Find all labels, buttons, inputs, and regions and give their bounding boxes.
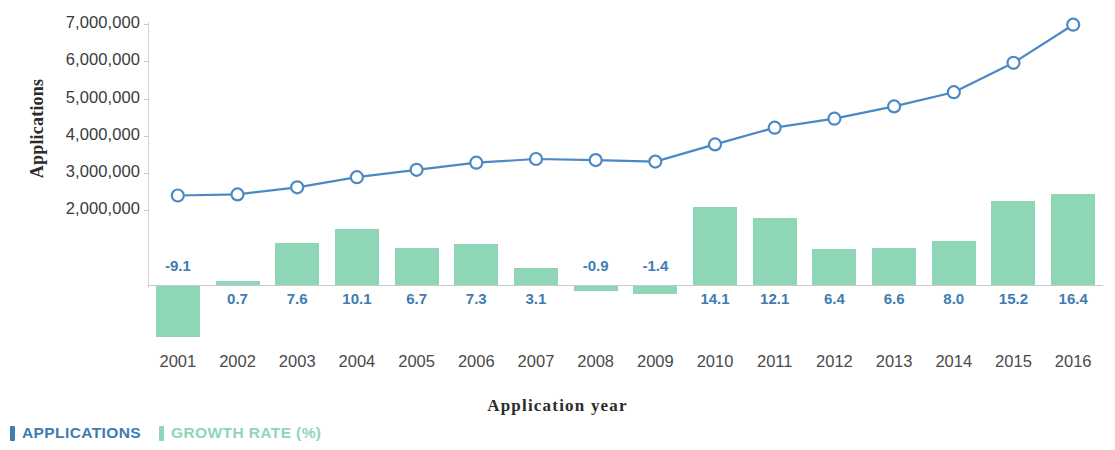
applications-growth-chart: Applications 2,000,0003,000,0004,000,000… [0, 0, 1115, 450]
applications-data-point-marker [232, 188, 244, 200]
chart-legend: APPLICATIONS GROWTH RATE (%) [10, 424, 321, 442]
y-tick-label: 5,000,000 [32, 88, 140, 107]
y-tick-mark [144, 61, 149, 62]
y-tick-label: 3,000,000 [32, 162, 140, 181]
applications-data-point-marker [649, 156, 661, 168]
legend-label-growth-rate: GROWTH RATE (%) [171, 424, 321, 442]
legend-label-applications: APPLICATIONS [22, 424, 141, 442]
y-tick-mark [144, 99, 149, 100]
applications-data-point-marker [351, 171, 363, 183]
applications-data-point-marker [172, 190, 184, 202]
applications-line-path [178, 25, 1073, 196]
y-tick-mark [144, 173, 149, 174]
applications-data-point-marker [530, 153, 542, 165]
y-tick-label: 7,000,000 [32, 13, 140, 32]
applications-data-point-marker [888, 100, 900, 112]
applications-data-point-marker [590, 154, 602, 166]
y-tick-mark [144, 136, 149, 137]
y-tick-label: 2,000,000 [32, 199, 140, 218]
applications-data-point-marker [291, 181, 303, 193]
legend-swatch-growth-rate [159, 426, 164, 441]
applications-data-point-marker [828, 113, 840, 125]
applications-data-point-marker [769, 122, 781, 134]
growth-rate-value-label: 16.4 [1033, 290, 1113, 307]
growth-rate-value-label: 3.1 [496, 290, 576, 307]
applications-data-point-marker [709, 138, 721, 150]
legend-item-applications[interactable]: APPLICATIONS [10, 424, 141, 442]
applications-data-point-marker [1067, 19, 1079, 31]
legend-swatch-applications [10, 426, 15, 441]
applications-data-point-marker [1008, 57, 1020, 69]
y-tick-mark [144, 24, 149, 25]
applications-data-point-marker [411, 164, 423, 176]
legend-item-growth-rate[interactable]: GROWTH RATE (%) [159, 424, 321, 442]
growth-rate-value-label: -9.1 [138, 257, 218, 274]
y-tick-label: 4,000,000 [32, 125, 140, 144]
applications-line-series [148, 0, 1103, 300]
y-tick-mark [144, 210, 149, 211]
applications-data-point-marker [948, 86, 960, 98]
applications-data-point-marker [470, 157, 482, 169]
growth-rate-value-label: -1.4 [615, 257, 695, 274]
y-tick-label: 6,000,000 [32, 50, 140, 69]
x-axis-title: Application year [0, 396, 1115, 416]
x-tick-label: 2016 [1033, 352, 1113, 371]
y-axis-tick-labels: 2,000,0003,000,0004,000,0005,000,0006,00… [30, 0, 140, 300]
